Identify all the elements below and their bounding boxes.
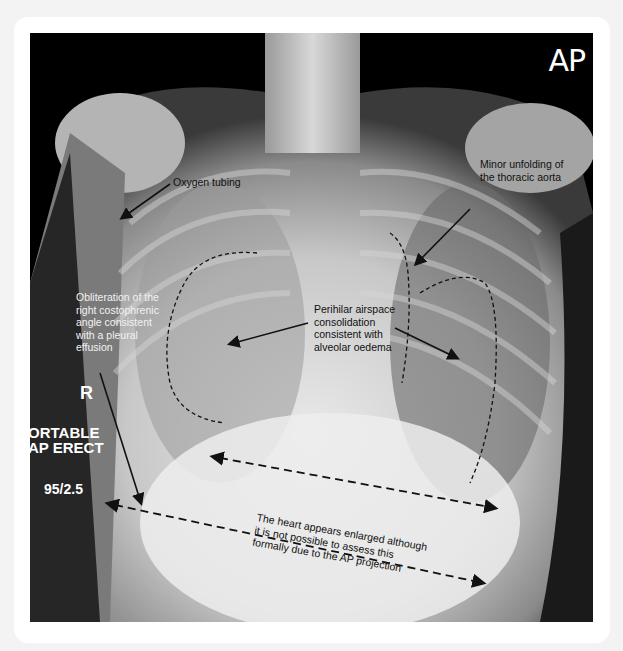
consolidation-line-1: Perihilar airspace	[314, 303, 395, 316]
annotation-consolidation: Perihilar airspace consolidation consist…	[314, 303, 395, 353]
annotation-oxygen-tubing: Oxygen tubing	[173, 176, 241, 189]
effusion-line-4: with a pleural	[76, 329, 159, 342]
aorta-line-1: Minor unfolding of	[480, 158, 563, 171]
consolidation-line-4: alveolar oedema	[314, 341, 395, 354]
view-label: AP	[548, 43, 585, 78]
technique-label: ORTABLE AP ERECT	[30, 425, 104, 455]
annotation-effusion: Obliteration of the right costophrenic a…	[76, 291, 159, 354]
chest-xray: AP R ORTABLE AP ERECT 95/2.5 Oxygen tubi…	[30, 33, 593, 622]
side-marker: R	[80, 383, 93, 404]
technique-line-2: AP ERECT	[30, 440, 104, 455]
consolidation-line-2: consolidation	[314, 316, 395, 329]
effusion-line-3: angle consistent	[76, 316, 159, 329]
effusion-line-5: effusion	[76, 341, 159, 354]
consolidation-line-3: consistent with	[314, 328, 395, 341]
annotation-aorta: Minor unfolding of the thoracic aorta	[480, 158, 563, 183]
effusion-line-2: right costophrenic	[76, 304, 159, 317]
aorta-line-2: the thoracic aorta	[480, 171, 563, 184]
exposure-label: 95/2.5	[44, 481, 83, 497]
technique-line-1: ORTABLE	[30, 425, 104, 440]
effusion-line-1: Obliteration of the	[76, 291, 159, 304]
